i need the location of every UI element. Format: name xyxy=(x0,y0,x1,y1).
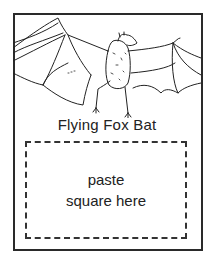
paste-instruction-line2: square here xyxy=(66,190,146,211)
bat-illustration xyxy=(13,13,201,118)
paste-instruction-line1: paste xyxy=(88,169,125,190)
paste-square-area: paste square here xyxy=(25,141,187,239)
caption: Flying Fox Bat xyxy=(13,116,201,133)
